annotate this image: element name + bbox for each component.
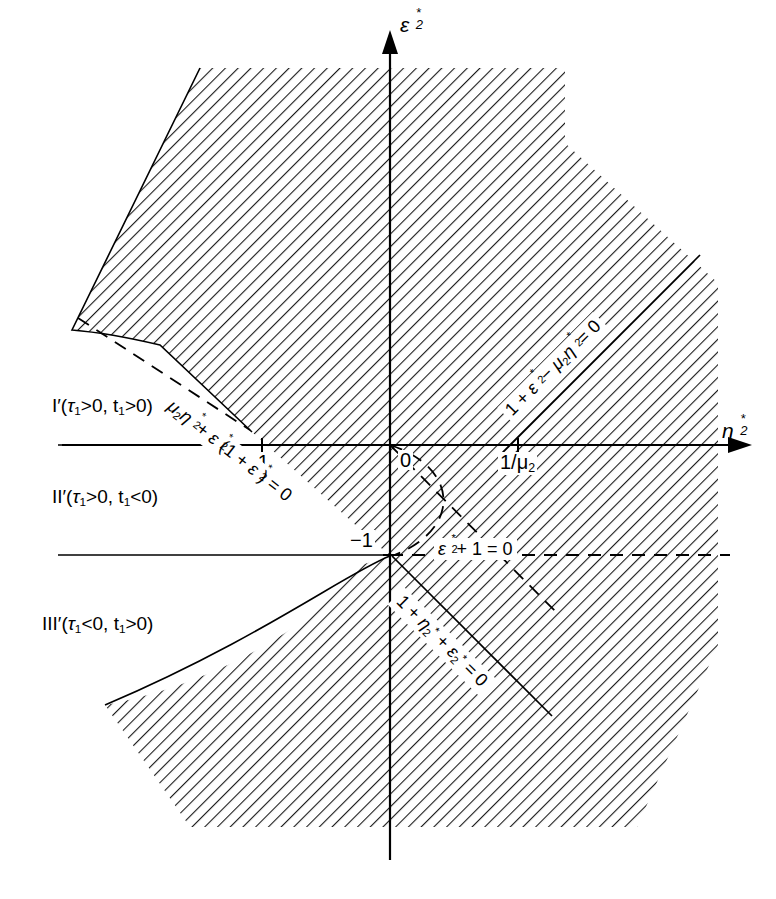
region-label-II: II′(τ1>0, t1<0) [52,487,158,508]
origin-label: 0 [398,450,413,470]
y-axis-arrow [382,30,398,54]
phase-plane-figure: εx*2 ηx*2 −1 0 1/μ2 −1 I′(τ1>0, t1>0) II… [0,0,776,899]
equation-horizontal-line: εx*2 + 1 = 0 [434,538,517,560]
diagram-canvas [0,0,776,899]
region-label-I: I′(τ1>0, t1>0) [52,396,153,417]
x-axis-label: ηx*2 [722,420,740,441]
x-tick-label-one-over-mu2: 1/μ2 [498,452,537,475]
y-tick-label-minus-one: −1 [348,530,375,550]
y-axis-label: εx*2 [400,14,416,35]
region-label-III: III′(τ1<0, t1>0) [42,614,153,635]
